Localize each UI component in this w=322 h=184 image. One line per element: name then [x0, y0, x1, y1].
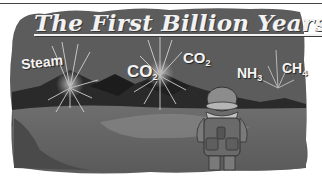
- gas-label-ch4: CH4: [282, 60, 307, 78]
- gas-label-nh3: NH3: [237, 65, 262, 83]
- gas-label-co2-left: CO2: [127, 62, 158, 82]
- illustration-title: The First Billion Years: [34, 9, 294, 36]
- gas-label-co2-right: CO2: [183, 49, 211, 68]
